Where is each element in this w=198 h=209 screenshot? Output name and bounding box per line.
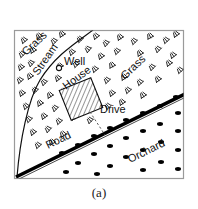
label-drive: Drive [100, 103, 126, 115]
figure-caption: (a) [92, 185, 106, 200]
well-point-symbol [56, 65, 61, 70]
map-figure: Grass Stream Well House Grass Drive Road… [0, 0, 198, 209]
map-diagram-svg: Grass Stream Well House Grass Drive Road… [0, 0, 198, 209]
